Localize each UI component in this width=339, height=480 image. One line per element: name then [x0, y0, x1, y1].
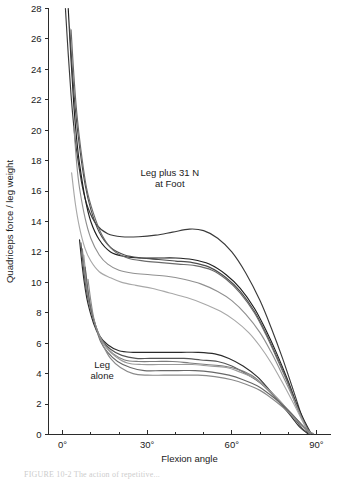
annotation-upper-group-label: Leg plus 31 Nat Foot [140, 167, 199, 189]
y-tick-label: 6 [36, 338, 41, 349]
quadriceps-force-chart: 02468101214161820222426280°30°60°90°Flex… [0, 0, 339, 480]
x-tick-label: 60° [225, 439, 240, 450]
y-tick-label: 20 [31, 125, 42, 136]
x-tick-label: 30° [140, 439, 155, 450]
figure-caption: FIGURE 10-2 The action of repetitive... [24, 470, 324, 479]
annotation-line2: at Foot [155, 178, 185, 189]
y-tick-label: 0 [36, 429, 41, 440]
y-axis-title: Quadriceps force / leg weight [4, 160, 15, 283]
y-tick-label: 2 [36, 398, 41, 409]
y-tick-label: 10 [31, 277, 42, 288]
y-tick-label: 18 [31, 155, 42, 166]
x-axis-title: Flexion angle [161, 453, 218, 464]
data-curve-unloaded-1 [80, 240, 308, 434]
y-tick-label: 8 [36, 307, 41, 318]
figure-root: 02468101214161820222426280°30°60°90°Flex… [0, 0, 339, 480]
annotation-line2: alone [90, 370, 113, 381]
y-tick-label: 26 [31, 33, 42, 44]
annotation-line1: Leg plus 31 N [140, 167, 199, 178]
y-tick-label: 22 [31, 94, 42, 105]
y-tick-label: 4 [36, 368, 41, 379]
y-tick-label: 24 [31, 64, 42, 75]
y-tick-label: 16 [31, 185, 42, 196]
annotation-lower-group-label: Legalone [90, 359, 113, 381]
x-tick-label: 90° [309, 439, 324, 450]
y-tick-label: 12 [31, 246, 42, 257]
annotation-line1: Leg [94, 359, 110, 370]
y-tick-label: 28 [31, 3, 42, 14]
y-tick-label: 14 [31, 216, 42, 227]
x-tick-label: 0° [58, 439, 67, 450]
data-curve-unloaded-4 [84, 255, 311, 434]
